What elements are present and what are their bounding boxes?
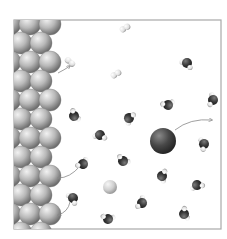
metal-atom [0,165,21,187]
metal-atom [39,127,61,149]
metal-atom [10,146,32,168]
metal-atom [19,203,41,225]
small-ion [103,180,117,194]
large-ion [150,128,176,154]
metal-atom [39,13,61,35]
metal-atom [30,32,52,54]
metal-atom [19,89,41,111]
metal-atom [30,146,52,168]
metal-atom [30,108,52,130]
metal-atom [10,184,32,206]
metal-atom [39,203,61,225]
metal-atom [10,70,32,92]
metal-atom [0,127,21,149]
metal-atom [19,165,41,187]
metal-atom [39,165,61,187]
metal-atom [10,108,32,130]
metal-atom [0,89,21,111]
metal-atom [10,32,32,54]
metal-atom [0,13,21,35]
metal-atom [19,51,41,73]
metal-atom [0,203,21,225]
metal-atom [19,13,41,35]
metal-atom [19,127,41,149]
metal-atom [30,70,52,92]
metal-atom [30,184,52,206]
metal-atom [0,51,21,73]
metal-atom [39,51,61,73]
metal-atom [39,89,61,111]
solvation-diagram [0,0,227,239]
